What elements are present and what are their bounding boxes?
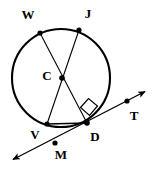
point-dot-J <box>76 27 81 32</box>
point-dot-D <box>84 120 90 126</box>
point-dot-M <box>52 140 57 145</box>
point-label-V: V <box>30 127 40 142</box>
point-label-T: T <box>130 108 139 123</box>
point-label-W: W <box>22 7 35 22</box>
geometry-canvas: W J C V D M T <box>0 0 154 174</box>
point-dot-T <box>124 98 129 103</box>
point-dot-V <box>44 121 49 126</box>
geometry-figure: W J C V D M T <box>0 0 154 174</box>
point-dot-C <box>59 75 65 81</box>
point-label-C: C <box>42 68 51 83</box>
point-dot-W <box>37 30 42 35</box>
point-label-M: M <box>55 147 67 162</box>
point-label-D: D <box>90 129 99 144</box>
point-label-J: J <box>85 6 92 21</box>
